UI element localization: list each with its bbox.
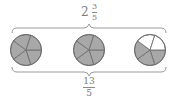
bottom-brace	[12, 67, 166, 76]
fraction: 13 5	[83, 77, 94, 98]
improper-fraction-label: 13 5	[78, 77, 100, 98]
numerator: 13	[83, 77, 94, 86]
fraction-circle	[73, 35, 104, 66]
top-brace	[12, 24, 166, 33]
denominator: 5	[86, 89, 92, 98]
fraction-circle	[135, 35, 166, 66]
fraction-diagram: 2 3 5 13 5	[0, 0, 174, 102]
fraction-circle	[10, 35, 41, 66]
